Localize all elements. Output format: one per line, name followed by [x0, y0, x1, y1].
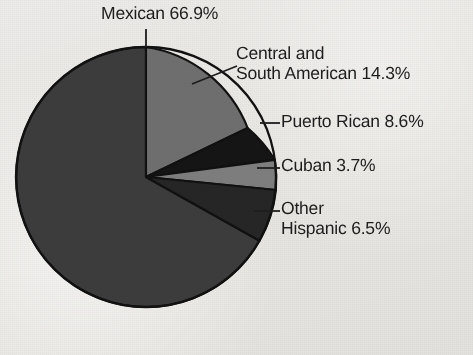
pie-chart-figure: Mexican 66.9% Central and South American… [0, 0, 473, 355]
slice-label-cuban: Cuban 3.7% [281, 156, 375, 176]
slice-label-mexican: Mexican 66.9% [101, 4, 218, 24]
slice-label-puerto-rican: Puerto Rican 8.6% [281, 112, 424, 132]
slice-label-central-south-american: Central and South American 14.3% [236, 44, 410, 84]
slice-label-other-hispanic: Other Hispanic 6.5% [281, 199, 390, 239]
